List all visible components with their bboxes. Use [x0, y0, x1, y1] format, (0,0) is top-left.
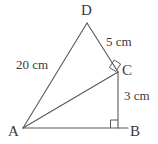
side-length-label-ad: 20 cm	[16, 58, 48, 71]
geometry-figure: A B C D 20 cm 5 cm 3 cm	[0, 0, 158, 144]
right-angle-mark-at-b	[111, 120, 119, 128]
edge-a-to-d	[23, 23, 87, 128]
vertex-label-b: B	[130, 124, 140, 139]
vertex-label-c: C	[122, 63, 132, 78]
vertex-label-d: D	[81, 3, 92, 18]
side-length-label-cb: 3 cm	[124, 89, 150, 102]
vertex-label-a: A	[8, 124, 19, 139]
side-length-label-dc: 5 cm	[106, 35, 132, 48]
edge-a-to-c	[23, 72, 118, 128]
